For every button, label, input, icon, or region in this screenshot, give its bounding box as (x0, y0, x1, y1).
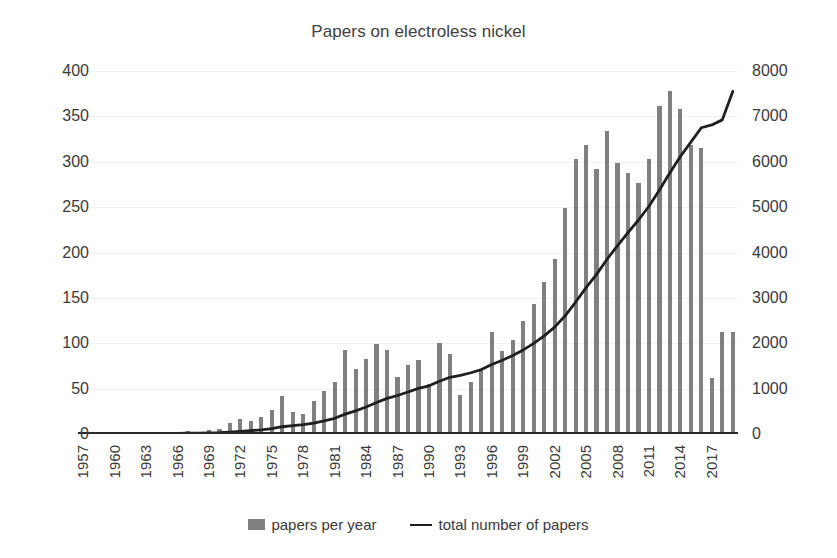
x-axis-tick-label: 1987 (390, 445, 405, 478)
x-axis-tick-label: 2005 (578, 445, 593, 478)
bar (374, 344, 378, 434)
x-axis-tick-label: 1984 (358, 445, 373, 478)
y-axis-left-tick-label: 300 (62, 154, 89, 170)
x-axis-tick-label: 1957 (75, 445, 90, 478)
chart-legend: papers per year total number of papers (0, 516, 837, 533)
bar (668, 91, 672, 434)
bar (291, 412, 295, 434)
y-axis-right-tick-label: 0 (752, 426, 761, 442)
x-axis-tick-label: 2008 (610, 445, 625, 478)
bar (532, 304, 536, 434)
bar (521, 321, 525, 434)
x-axis-tick-label: 1993 (452, 445, 467, 478)
x-axis-tick-label: 1978 (295, 445, 310, 478)
x-axis-tick-label: 1996 (484, 445, 499, 478)
y-axis-right-tick-label: 7000 (752, 108, 788, 124)
bar (511, 340, 515, 434)
bar (574, 159, 578, 434)
y-axis-right-tick-label: 3000 (752, 290, 788, 306)
legend-item-total-number-of-papers: total number of papers (410, 516, 588, 533)
bar (647, 159, 651, 434)
bar (469, 382, 473, 434)
bar (479, 370, 483, 434)
bar (584, 145, 588, 434)
bar (343, 350, 347, 434)
chart-title: Papers on electroless nickel (0, 22, 837, 42)
bar (448, 354, 452, 434)
bar (458, 395, 462, 434)
bar (301, 414, 305, 434)
bar (280, 396, 284, 434)
legend-label-total-number-of-papers: total number of papers (438, 516, 588, 533)
x-axis-tick-label: 2014 (672, 445, 687, 478)
y-axis-right-tick-label: 6000 (752, 154, 788, 170)
bar (553, 259, 557, 434)
bar (636, 183, 640, 434)
y-axis-right-tick-label: 4000 (752, 245, 788, 261)
y-axis-left-tick-label: 200 (62, 245, 89, 261)
bar (395, 377, 399, 434)
bar (678, 109, 682, 434)
bar (710, 378, 714, 434)
y-axis-left-tick-label: 100 (62, 335, 89, 351)
bar-series-papers-per-year (78, 71, 738, 434)
bar (416, 360, 420, 434)
bar (689, 145, 693, 434)
bar (500, 351, 504, 434)
y-axis-left-tick-label: 250 (62, 199, 89, 215)
x-axis-tick-label: 1960 (107, 445, 122, 478)
bar (657, 106, 661, 434)
bar (427, 384, 431, 434)
x-axis-tick-label: 1969 (201, 445, 216, 478)
y-axis-left-tick-label: 0 (80, 426, 89, 442)
bar (259, 417, 263, 434)
x-axis-tick-label: 1972 (232, 445, 247, 478)
bar (626, 173, 630, 434)
bar (333, 382, 337, 434)
legend-label-papers-per-year: papers per year (271, 516, 376, 533)
bar (563, 208, 567, 434)
y-axis-right-tick-label: 8000 (752, 63, 788, 79)
bar (594, 169, 598, 434)
plot-area (78, 71, 738, 434)
y-axis-right-tick-label: 2000 (752, 335, 788, 351)
chart-container: Papers on electroless nickel 05010015020… (0, 0, 837, 558)
bar (406, 365, 410, 434)
bar (270, 410, 274, 434)
y-axis-left-tick-label: 50 (71, 381, 89, 397)
y-axis-left-tick-label: 400 (62, 63, 89, 79)
x-axis-tick-label: 1981 (327, 445, 342, 478)
bar (731, 332, 735, 434)
y-axis-left-tick-label: 350 (62, 108, 89, 124)
bar (312, 401, 316, 434)
bar (699, 148, 703, 434)
bar (605, 131, 609, 434)
bar (354, 369, 358, 434)
bar (615, 163, 619, 434)
bar (720, 332, 724, 434)
bar (385, 350, 389, 434)
x-axis-tick-label: 2011 (641, 445, 656, 477)
legend-item-papers-per-year: papers per year (248, 516, 376, 533)
x-axis-tick-label: 1999 (515, 445, 530, 478)
x-axis-tick-label: 2017 (704, 445, 719, 478)
bar (364, 359, 368, 434)
x-axis-tick-label: 1990 (421, 445, 436, 478)
y-axis-right-tick-label: 5000 (752, 199, 788, 215)
x-axis-tick-label: 1963 (138, 445, 153, 478)
legend-bar-swatch-icon (248, 519, 265, 530)
legend-line-swatch-icon (410, 524, 432, 526)
bar (322, 391, 326, 434)
x-axis-line (78, 432, 738, 434)
x-axis-tick-label: 1966 (170, 445, 185, 478)
bar (542, 282, 546, 434)
y-axis-right-tick-label: 1000 (752, 381, 788, 397)
x-axis-tick-label: 2002 (547, 445, 562, 478)
bar (490, 332, 494, 434)
bar (437, 343, 441, 434)
x-axis-tick-label: 1975 (264, 445, 279, 478)
y-axis-left-tick-label: 150 (62, 290, 89, 306)
